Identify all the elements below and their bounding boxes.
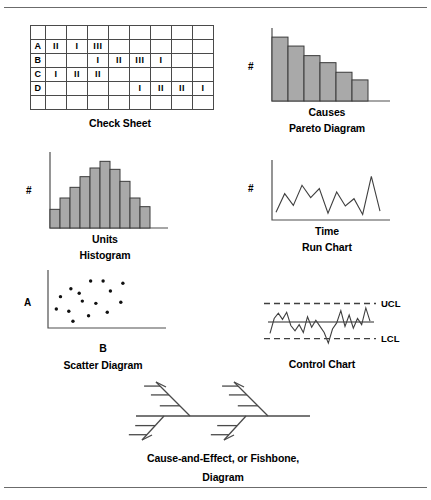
tally-cell (109, 96, 130, 110)
scatter-point (121, 282, 124, 285)
tally-cell (193, 26, 214, 40)
tally-cell: I (193, 82, 214, 96)
tally-cell (109, 40, 130, 54)
tally-cell (109, 82, 130, 96)
scatter-chart-plot (38, 270, 168, 340)
scatter-point (109, 289, 112, 292)
bar (130, 198, 140, 228)
table-row: A II I III (31, 40, 214, 54)
bar (336, 72, 352, 101)
tally-cell: III (88, 40, 109, 54)
lower-control-limit-label: LCL (381, 333, 400, 344)
bar (110, 169, 120, 228)
scatter-point (81, 299, 84, 302)
bar (304, 56, 320, 101)
scatter-point (78, 292, 81, 295)
tally-cell: II (109, 54, 130, 68)
tally-cell: II (46, 40, 67, 54)
scatter-point (71, 320, 74, 323)
tally-cell (46, 54, 67, 68)
check-sheet-figure: A II I III B I II III I (30, 25, 214, 130)
scatter-point (69, 287, 72, 290)
data-series-line (276, 176, 380, 214)
tally-cell (193, 68, 214, 82)
tally-cell (109, 26, 130, 40)
fishbone-caption-line2: Diagram (128, 471, 318, 484)
table-row (31, 26, 214, 40)
scatter-x-axis-label: B (38, 342, 168, 355)
row-label (31, 96, 46, 110)
histogram-caption-title: Histogram (40, 249, 170, 262)
tally-cell (67, 82, 88, 96)
table-row: B I II III I (31, 54, 214, 68)
scatter-point (94, 302, 97, 305)
tally-cell: II (151, 82, 172, 96)
tally-cell (46, 26, 67, 40)
check-sheet-table: A II I III B I II III I (30, 25, 214, 110)
bar (140, 207, 150, 228)
tally-cell (67, 26, 88, 40)
histogram-figure: # Units Histogram (40, 152, 170, 261)
bar (272, 37, 288, 101)
run-chart-figure: # Time Run Chart (262, 160, 392, 253)
tally-cell (151, 96, 172, 110)
pareto-diagram-figure: # Causes Pareto Diagram (262, 28, 392, 134)
tally-cell (88, 96, 109, 110)
tally-cell (109, 68, 130, 82)
data-series-line (270, 308, 370, 343)
scatter-point (87, 314, 90, 317)
top-divider (4, 7, 427, 8)
scatter-point (59, 295, 62, 298)
tally-cell (67, 96, 88, 110)
scatter-caption: Scatter Diagram (38, 359, 168, 372)
bottom-divider (4, 487, 427, 488)
tally-cell (130, 96, 151, 110)
pareto-caption-causes: Causes (262, 106, 392, 119)
bar (120, 181, 130, 228)
row-label: A (31, 40, 46, 54)
tally-cell: I (130, 82, 151, 96)
tally-cell (172, 26, 193, 40)
control-chart-caption: Control Chart (262, 358, 382, 371)
tally-cell (130, 68, 151, 82)
tally-cell: I (151, 54, 172, 68)
tally-cell (88, 26, 109, 40)
run-chart-caption-time: Time (262, 225, 392, 238)
axis-lines (48, 270, 166, 328)
histogram-y-axis-label: # (26, 186, 32, 196)
fishbone-bone (142, 416, 164, 440)
run-chart-caption-title: Run Chart (262, 241, 392, 254)
bar (352, 80, 368, 101)
tally-cell (172, 40, 193, 54)
tally-cell (193, 40, 214, 54)
tally-cell: I (46, 68, 67, 82)
histogram-chart-plot (40, 152, 170, 230)
upper-control-limit-label: UCL (381, 298, 401, 309)
bar (100, 161, 110, 228)
bar (60, 198, 70, 228)
row-label: C (31, 68, 46, 82)
control-chart-plot: UCLLCL (262, 296, 420, 350)
tally-cell: III (130, 54, 151, 68)
tally-cell (46, 96, 67, 110)
table-row: D I II II I (31, 82, 214, 96)
tally-cell: II (88, 68, 109, 82)
tally-cell (172, 96, 193, 110)
bar (320, 63, 336, 101)
tally-cell: I (67, 40, 88, 54)
tally-cell (172, 54, 193, 68)
pareto-chart-plot (262, 28, 392, 103)
tally-cell (151, 26, 172, 40)
pareto-y-axis-label: # (248, 62, 254, 72)
tally-cell (172, 68, 193, 82)
scatter-y-axis-label: A (24, 298, 31, 308)
scatter-point (119, 301, 122, 304)
bar (80, 177, 90, 228)
tally-cell: II (172, 82, 193, 96)
run-chart-y-axis-label: # (248, 184, 254, 194)
tally-cell (67, 54, 88, 68)
tally-cell: I (88, 54, 109, 68)
bar (90, 168, 100, 228)
tally-cell (88, 82, 109, 96)
fishbone-plot (128, 378, 318, 446)
